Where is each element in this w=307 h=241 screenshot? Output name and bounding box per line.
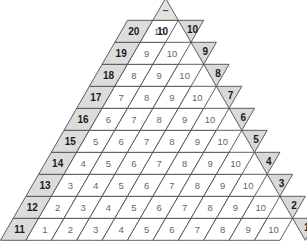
grid-cell-number: 5: [144, 224, 149, 235]
grid-cell-number: 10: [179, 70, 190, 81]
grid-cell-number: 9: [182, 114, 187, 125]
grid-cell-number: 5: [131, 202, 136, 213]
grid-cell-number: 7: [131, 114, 136, 125]
grid-cell-number: 8: [195, 180, 200, 191]
grid-cell-number: 2: [68, 224, 73, 235]
grid-cell-number: 6: [169, 224, 174, 235]
grid-cell-number: 6: [106, 114, 111, 125]
grid-cell-number: 7: [119, 92, 124, 103]
grid-cell-number: 5: [93, 136, 98, 147]
apex-value-label: 10: [157, 26, 169, 37]
grid-cell-number: 10: [243, 180, 254, 191]
grid-cell-number: 2: [55, 202, 60, 213]
grid-cell-number: 9: [169, 92, 174, 103]
grid-cell-number: 10: [167, 48, 178, 59]
grid-cell-number: 3: [93, 224, 98, 235]
grid-cell-number: 9: [220, 180, 225, 191]
grid-cell-number: 7: [195, 224, 200, 235]
grid-cell-number: 9: [207, 158, 212, 169]
row-left-label: 20: [128, 26, 140, 37]
grid-cell-number: 9: [144, 48, 149, 59]
grid-cell-number: 4: [93, 180, 98, 191]
row-right-label: 6: [241, 112, 247, 123]
row-right-label: 9: [202, 46, 208, 57]
grid-cell-number: 5: [106, 158, 111, 169]
grid-cell-number: 10: [205, 114, 216, 125]
row-right-label: 7: [228, 90, 234, 101]
grid-cell-number: 9: [233, 202, 238, 213]
row-right-label: 10: [187, 24, 199, 35]
row-left-label: 14: [52, 158, 64, 169]
triangle-grid-diagram: 1112345678910112234567891021334567891031…: [0, 0, 307, 241]
grid-cell-number: 6: [131, 158, 136, 169]
grid-cell-number: 10: [230, 158, 241, 169]
grid-cell-number: 7: [169, 180, 174, 191]
row-left-label: 12: [27, 202, 39, 213]
grid-cell-number: 1: [42, 224, 47, 235]
row-right-label: 8: [215, 68, 221, 79]
triangle-grid-svg: 1112345678910112234567891021334567891031…: [0, 0, 307, 241]
grid-cell-number: 8: [144, 92, 149, 103]
apex-dash-symbol: –: [163, 4, 169, 16]
row-left-label: 17: [90, 92, 102, 103]
grid-cell-number: 8: [182, 158, 187, 169]
grid-cell-number: 8: [220, 224, 225, 235]
row-left-label: 19: [116, 48, 128, 59]
grid-cell-number: 7: [144, 136, 149, 147]
row-left-label: 11: [14, 224, 25, 235]
grid-cell-number: 9: [246, 224, 251, 235]
grid-cell-number: 4: [80, 158, 85, 169]
row-right-label: 1: [304, 222, 307, 233]
grid-cell-number: 3: [68, 180, 73, 191]
row-left-label: 18: [103, 70, 115, 81]
grid-cell-number: 6: [144, 180, 149, 191]
grid-cell-number: 10: [268, 224, 279, 235]
row-left-label: 16: [77, 114, 89, 125]
grid-cell-number: 4: [119, 224, 124, 235]
grid-cell-number: 6: [119, 136, 124, 147]
grid-cell-number: 8: [207, 202, 212, 213]
grid-cell-number: 4: [106, 202, 111, 213]
row-left-label: 15: [65, 136, 77, 147]
grid-cell-number: 7: [182, 202, 187, 213]
grid-cell-number: 8: [131, 70, 136, 81]
grid-cell-number: 5: [119, 180, 124, 191]
grid-cell-number: 8: [157, 114, 162, 125]
row-right-label: 3: [279, 178, 285, 189]
grid-cell-number: 9: [157, 70, 162, 81]
grid-cell-number: 10: [256, 202, 267, 213]
row-right-label: 2: [291, 200, 297, 211]
grid-cell-number: 10: [217, 136, 228, 147]
row-left-label: 13: [39, 180, 51, 191]
grid-cell-number: 3: [80, 202, 85, 213]
grid-cell-number: 6: [157, 202, 162, 213]
grid-cell-number: 9: [195, 136, 200, 147]
grid-cell-number: 10: [192, 92, 203, 103]
grid-cell-number: 7: [157, 158, 162, 169]
row-right-label: 5: [253, 134, 259, 145]
row-right-label: 4: [266, 156, 272, 167]
grid-cell-number: 8: [169, 136, 174, 147]
